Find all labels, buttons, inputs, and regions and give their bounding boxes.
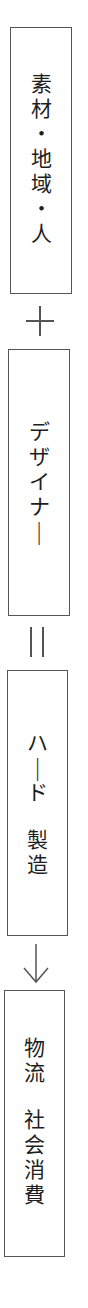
box-label-logistics-social-consumption: 物流社会消費 <box>5 1036 64 1208</box>
box-materials-region-people: 素材・地域・人 <box>10 27 72 294</box>
label-char: 域 <box>31 172 52 197</box>
label-char: 製 <box>27 828 48 853</box>
box-designer: デザイナ| <box>8 349 70 616</box>
box-logistics-social-consumption: 物流社会消費 <box>4 990 65 1257</box>
label-char: 会 <box>24 1133 45 1158</box>
label-char: ハ <box>27 731 48 756</box>
label-char: 造 <box>27 853 48 878</box>
label-char: ・ <box>31 122 52 147</box>
label-char: 流 <box>24 1061 45 1086</box>
label-char: 材 <box>31 97 52 122</box>
label-char: 社 <box>24 1108 45 1133</box>
box-label-designer: デザイナ| <box>9 420 69 545</box>
label-char: ナ <box>29 495 50 520</box>
label-char: ・ <box>31 197 52 222</box>
label-char: 地 <box>31 147 52 172</box>
label-char: デ <box>29 420 50 445</box>
box-label-hardware-manufacturing: ハ|ド製造 <box>8 731 67 878</box>
label-char: | <box>35 519 42 547</box>
equals-icon <box>30 627 45 657</box>
label-char: ザ <box>29 445 50 470</box>
label-char: 物 <box>24 1036 45 1061</box>
plus-icon <box>26 306 54 336</box>
label-char: 素 <box>31 72 52 97</box>
arrow-down-icon <box>23 944 49 984</box>
box-label-materials-region-people: 素材・地域・人 <box>11 72 71 247</box>
label-char: 消 <box>24 1158 45 1183</box>
box-hardware-manufacturing: ハ|ド製造 <box>7 670 68 936</box>
label-char: ド <box>27 781 48 806</box>
label-char: 費 <box>24 1183 45 1208</box>
label-char: 人 <box>31 222 52 247</box>
label-char: | <box>34 755 41 783</box>
label-char: イ <box>29 470 50 495</box>
